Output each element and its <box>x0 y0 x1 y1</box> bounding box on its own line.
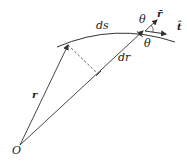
position-vector-r-plus-dr <box>20 31 143 145</box>
diagram-canvas: O r ds dr θ θ r̄ t̂ <box>0 0 187 163</box>
label-unit-radial: r̄ <box>157 8 163 19</box>
dashed-perpendicular <box>68 45 98 74</box>
label-angle-top: θ <box>139 13 146 26</box>
label-angle-bottom: θ <box>144 37 151 50</box>
angle-arc-top <box>151 25 153 32</box>
label-arc-length: ds <box>96 19 109 32</box>
label-unit-tangent: t̂ <box>177 20 182 32</box>
unit-tangent-vector <box>145 31 166 34</box>
diagram-svg: O r ds dr θ θ r̄ t̂ <box>0 0 187 163</box>
label-radial-increment: dr <box>118 51 131 64</box>
label-origin: O <box>12 144 21 157</box>
curve-path <box>57 33 175 47</box>
label-position-vector: r <box>32 89 38 100</box>
position-vector-r <box>20 45 68 145</box>
